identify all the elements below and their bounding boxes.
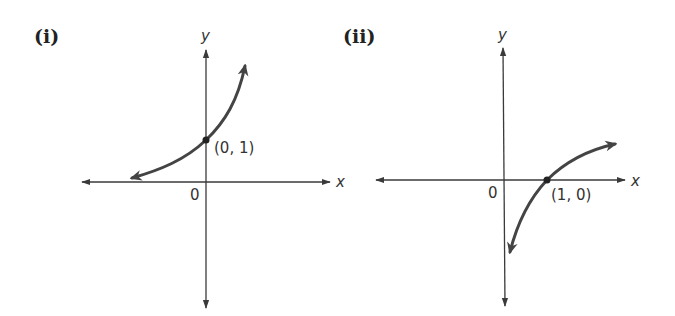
- panel-label-ii: (ii): [343, 25, 375, 47]
- panel-label-i: (i): [34, 25, 59, 47]
- point-marker: [203, 137, 210, 144]
- graph-exponential: (i) y x 0 (0, 1): [34, 25, 345, 308]
- diagram-canvas: (i) y x 0 (0, 1) (ii) y x 0 (1, 0): [0, 0, 675, 316]
- origin-label: 0: [190, 186, 200, 204]
- origin-label: 0: [488, 184, 498, 202]
- point-label: (1, 0): [551, 186, 591, 204]
- x-axis-label: x: [630, 172, 640, 190]
- exponential-curve: [132, 66, 245, 178]
- y-axis-label: y: [497, 26, 508, 44]
- y-axis-label: y: [200, 27, 211, 45]
- graph-logarithmic: (ii) y x 0 (1, 0): [343, 25, 640, 306]
- point-marker: [544, 177, 551, 184]
- y-axis: [503, 48, 505, 306]
- point-label: (0, 1): [214, 139, 254, 157]
- x-axis-label: x: [335, 173, 345, 191]
